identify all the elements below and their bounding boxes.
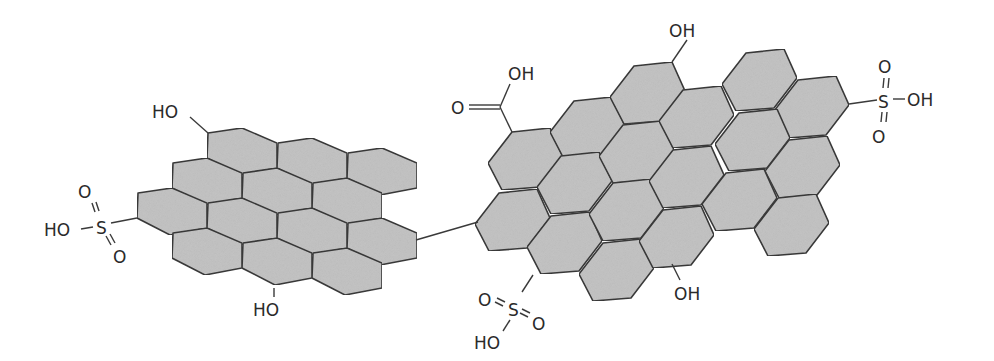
- double-bond: [520, 313, 528, 317]
- sulfur-label: S: [508, 300, 519, 320]
- bond: [503, 320, 510, 331]
- bond: [81, 227, 93, 229]
- double-bond: [522, 309, 530, 313]
- hydroxyl-label: OH: [674, 284, 700, 304]
- oxygen-label: O: [113, 247, 126, 267]
- left-bottom-hydroxyl-group: HO: [253, 288, 279, 320]
- double-bond: [106, 236, 111, 245]
- double-bond: [888, 78, 889, 88]
- sulfur-label: S: [96, 218, 107, 238]
- bond: [500, 107, 512, 132]
- double-bond: [497, 298, 505, 302]
- right-graphene-sheet: [475, 49, 849, 301]
- left-graphene-sheet: [137, 128, 417, 295]
- bond: [111, 218, 137, 223]
- double-bond: [886, 112, 887, 122]
- double-bond: [110, 234, 115, 243]
- sulfur-label: S: [878, 92, 889, 112]
- hydroxyl-label: HO: [152, 102, 178, 122]
- left-sulfonic-acid-group: S HO O O: [44, 182, 137, 267]
- right-sulfonic-acid-group: S OH O O: [849, 57, 933, 147]
- carboxyl-group: OH O: [451, 64, 534, 132]
- hydroxyl-label: HO: [474, 333, 500, 353]
- double-bond: [96, 202, 99, 211]
- bond: [500, 84, 510, 107]
- double-bond: [495, 302, 503, 306]
- oxygen-label: O: [78, 182, 91, 202]
- inter-sheet-bond: [416, 222, 478, 240]
- right-bottom-hydroxyl-group: OH: [672, 264, 700, 304]
- oxygen-label: O: [878, 57, 891, 77]
- right-top-hydroxyl-group: OH: [669, 21, 695, 62]
- double-bond: [883, 78, 884, 88]
- oxygen-label: O: [451, 98, 464, 118]
- bond: [849, 100, 877, 104]
- bond: [672, 40, 687, 62]
- oxygen-label: O: [478, 290, 491, 310]
- double-bond: [881, 112, 882, 122]
- bond: [190, 117, 208, 133]
- hydroxyl-label: HO: [44, 220, 70, 240]
- left-top-hydroxyl-group: HO: [152, 102, 208, 133]
- hydroxyl-label: OH: [669, 21, 695, 41]
- oxygen-label: O: [532, 314, 545, 334]
- bottom-sulfonic-acid-group: S O O HO: [474, 275, 545, 353]
- oxygen-label: O: [872, 127, 885, 147]
- hydroxyl-label: OH: [508, 64, 534, 84]
- double-bond: [92, 203, 95, 212]
- chemical-structure-diagram: HO HO S HO O O OH O OH OH S OH: [0, 0, 994, 361]
- hydroxyl-label: HO: [253, 300, 279, 320]
- bond: [522, 275, 533, 292]
- hydroxyl-label: OH: [907, 90, 933, 110]
